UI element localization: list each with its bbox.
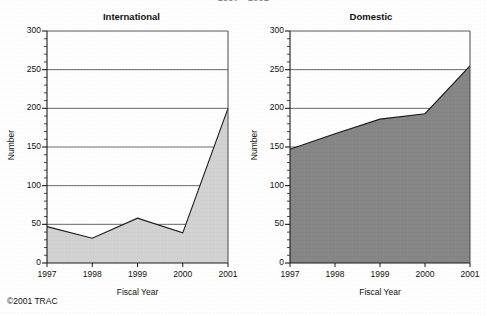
y-axis-tick-label: 50 (246, 218, 284, 228)
x-axis-tick-label: 2001 (208, 269, 248, 279)
x-axis-title: Fiscal Year (47, 287, 228, 297)
y-axis-tick-label: 50 (3, 218, 41, 228)
y-axis-tick-label: 300 (246, 25, 284, 35)
clipped-document-header: 1997 - 2001 (0, 0, 487, 3)
x-axis-tick-label: 1999 (360, 269, 400, 279)
y-axis-tick-label: 0 (3, 257, 41, 267)
x-axis-tick-label: 1997 (27, 269, 67, 279)
copyright-notice: ©2001 TRAC (7, 296, 58, 306)
x-axis-tick-label: 1998 (72, 269, 112, 279)
chart-title-domestic: Domestic (243, 11, 487, 22)
x-axis-tick-label: 2000 (405, 269, 445, 279)
y-axis-tick-label: 300 (3, 25, 41, 35)
y-axis-tick-label: 0 (246, 257, 284, 267)
y-axis-title: Number (6, 95, 16, 195)
x-axis-tick-label: 2000 (163, 269, 203, 279)
x-axis-tick-label: 1998 (315, 269, 355, 279)
area-fill-domestic (290, 66, 470, 263)
chart-title-international: International (0, 11, 253, 22)
x-axis-tick-label: 2001 (450, 269, 487, 279)
y-axis-tick-label: 250 (246, 64, 284, 74)
chart-pair-container: International 05010015020025030019971998… (0, 0, 487, 300)
chart-panel-domestic: Domestic 0501001502002503001997199819992… (243, 0, 487, 300)
chart-panel-international: International 05010015020025030019971998… (0, 0, 243, 300)
y-axis-tick-label: 250 (3, 64, 41, 74)
y-axis-title: Number (249, 95, 259, 195)
x-axis-tick-label: 1997 (270, 269, 310, 279)
x-axis-title: Fiscal Year (290, 287, 470, 297)
x-axis-tick-label: 1999 (118, 269, 158, 279)
